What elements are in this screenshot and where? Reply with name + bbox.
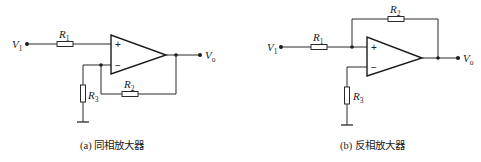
caption-a: (a) 同相放大器 xyxy=(80,139,145,152)
minus-input-sign: − xyxy=(115,60,121,71)
resistor-r1-label: R1 xyxy=(58,28,70,43)
resistor-r3-label: R3 xyxy=(87,89,99,104)
minus-input-sign: − xyxy=(371,62,377,73)
output-label-vo: Vo xyxy=(463,52,474,67)
resistor-r3 xyxy=(345,87,350,104)
input-label-v1: V1 xyxy=(267,41,278,56)
wire xyxy=(347,67,367,87)
resistor-r2-label: R2 xyxy=(123,78,135,93)
plus-input-sign: + xyxy=(371,42,377,53)
resistor-r3 xyxy=(81,85,86,102)
output-terminal xyxy=(198,53,202,57)
caption-b: (b) 反相放大器 xyxy=(340,139,406,152)
resistor-r2-label: R2 xyxy=(389,3,401,18)
resistor-r3-label: R3 xyxy=(352,90,364,105)
input-label-v1: V1 xyxy=(12,38,23,53)
output-label-vo: Vo xyxy=(205,49,216,64)
panel-a-noninverting-amplifier: V1 R1 + − Vo R3 R2 (a) 同相放大器 xyxy=(12,28,216,152)
plus-input-sign: + xyxy=(115,39,121,50)
wire xyxy=(404,19,438,58)
resistor-r1-label: R1 xyxy=(312,31,324,46)
panel-b-inverting-amplifier: V1 R1 + − R2 Vo R3 (b) 反相放大器 xyxy=(267,3,474,152)
output-node xyxy=(436,56,440,60)
circuit-diagram: V1 R1 + − Vo R3 R2 (a) 同相放大器 V1 xyxy=(0,0,481,162)
output-terminal xyxy=(456,56,460,60)
